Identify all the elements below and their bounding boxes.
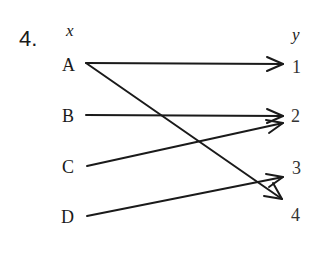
arrow-a-to-4 xyxy=(86,63,282,199)
arrow-b-to-2 xyxy=(86,109,283,123)
arrow-a-to-1 xyxy=(86,57,283,71)
arrow-c-to-2 xyxy=(87,120,283,166)
mapping-arrows xyxy=(0,0,313,264)
